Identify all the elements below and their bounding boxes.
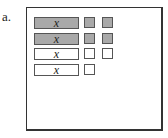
- unit-tile-plain: [102, 48, 113, 59]
- x-tile-shaded: x: [34, 17, 79, 29]
- x-tile-plain: x: [34, 48, 79, 60]
- unit-tile-plain: [84, 64, 95, 75]
- unit-tile-plain: [84, 48, 95, 59]
- unit-tile-shaded: [84, 33, 95, 44]
- x-tile-shaded: x: [34, 33, 79, 45]
- unit-tile-shaded: [84, 17, 95, 28]
- problem-label: a.: [2, 9, 11, 25]
- x-tile-plain: x: [34, 64, 79, 76]
- unit-tile-shaded: [102, 33, 113, 44]
- unit-tile-shaded: [102, 17, 113, 28]
